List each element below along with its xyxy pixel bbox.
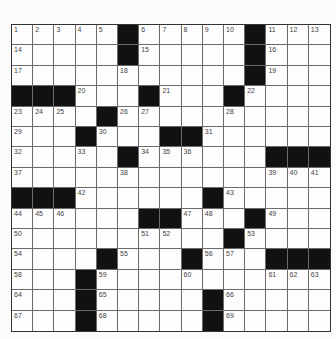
grid-cell[interactable] — [118, 311, 139, 331]
grid-cell[interactable] — [266, 107, 287, 127]
grid-cell[interactable] — [288, 127, 309, 147]
grid-cell[interactable] — [288, 86, 309, 106]
grid-cell[interactable]: 52 — [160, 229, 181, 249]
grid-cell[interactable] — [54, 290, 75, 310]
grid-cell[interactable] — [76, 66, 97, 86]
grid-cell[interactable] — [182, 311, 203, 331]
grid-cell[interactable] — [288, 311, 309, 331]
grid-cell[interactable]: 29 — [12, 127, 33, 147]
grid-cell[interactable]: 39 — [266, 168, 287, 188]
grid-cell[interactable] — [76, 107, 97, 127]
grid-cell[interactable]: 5 — [97, 25, 118, 45]
grid-cell[interactable] — [245, 147, 266, 167]
grid-cell[interactable] — [118, 127, 139, 147]
grid-cell[interactable]: 59 — [97, 270, 118, 290]
grid-cell[interactable] — [139, 290, 160, 310]
grid-cell[interactable] — [309, 66, 330, 86]
grid-cell[interactable] — [203, 147, 224, 167]
grid-cell[interactable] — [54, 249, 75, 269]
grid-cell[interactable] — [33, 147, 54, 167]
grid-cell[interactable] — [160, 249, 181, 269]
grid-cell[interactable] — [309, 188, 330, 208]
grid-cell[interactable] — [97, 209, 118, 229]
grid-cell[interactable]: 65 — [97, 290, 118, 310]
grid-cell[interactable] — [33, 229, 54, 249]
grid-cell[interactable]: 56 — [203, 249, 224, 269]
grid-cell[interactable] — [160, 107, 181, 127]
grid-cell[interactable]: 69 — [224, 311, 245, 331]
grid-cell[interactable]: 64 — [12, 290, 33, 310]
grid-cell[interactable] — [288, 188, 309, 208]
grid-cell[interactable]: 26 — [118, 107, 139, 127]
grid-cell[interactable] — [76, 229, 97, 249]
grid-cell[interactable] — [309, 107, 330, 127]
grid-cell[interactable]: 53 — [245, 229, 266, 249]
grid-cell[interactable] — [160, 45, 181, 65]
grid-cell[interactable] — [97, 229, 118, 249]
grid-cell[interactable] — [245, 290, 266, 310]
grid-cell[interactable] — [118, 290, 139, 310]
grid-cell[interactable]: 17 — [12, 66, 33, 86]
grid-cell[interactable]: 12 — [288, 25, 309, 45]
grid-cell[interactable]: 45 — [33, 209, 54, 229]
grid-cell[interactable]: 10 — [224, 25, 245, 45]
grid-cell[interactable] — [309, 209, 330, 229]
grid-cell[interactable]: 11 — [266, 25, 287, 45]
grid-cell[interactable] — [139, 127, 160, 147]
grid-cell[interactable] — [203, 86, 224, 106]
grid-cell[interactable]: 13 — [309, 25, 330, 45]
grid-cell[interactable] — [182, 86, 203, 106]
grid-cell[interactable]: 63 — [309, 270, 330, 290]
grid-cell[interactable] — [288, 229, 309, 249]
grid-cell[interactable]: 24 — [33, 107, 54, 127]
grid-cell[interactable] — [97, 66, 118, 86]
grid-cell[interactable]: 40 — [288, 168, 309, 188]
grid-cell[interactable] — [309, 229, 330, 249]
grid-cell[interactable]: 62 — [288, 270, 309, 290]
grid-cell[interactable] — [224, 45, 245, 65]
grid-cell[interactable]: 58 — [12, 270, 33, 290]
grid-cell[interactable] — [54, 270, 75, 290]
grid-cell[interactable] — [139, 270, 160, 290]
grid-cell[interactable]: 36 — [182, 147, 203, 167]
grid-cell[interactable]: 44 — [12, 209, 33, 229]
grid-cell[interactable]: 49 — [266, 209, 287, 229]
grid-cell[interactable] — [97, 86, 118, 106]
grid-cell[interactable]: 8 — [182, 25, 203, 45]
grid-cell[interactable]: 18 — [118, 66, 139, 86]
grid-cell[interactable]: 22 — [245, 86, 266, 106]
grid-cell[interactable] — [97, 147, 118, 167]
grid-cell[interactable] — [139, 311, 160, 331]
grid-cell[interactable] — [160, 270, 181, 290]
grid-cell[interactable] — [203, 66, 224, 86]
grid-cell[interactable]: 60 — [182, 270, 203, 290]
grid-cell[interactable] — [245, 270, 266, 290]
grid-cell[interactable] — [160, 290, 181, 310]
grid-cell[interactable]: 21 — [160, 86, 181, 106]
grid-cell[interactable]: 54 — [12, 249, 33, 269]
grid-cell[interactable] — [54, 66, 75, 86]
grid-cell[interactable] — [97, 45, 118, 65]
grid-cell[interactable] — [288, 107, 309, 127]
grid-cell[interactable]: 51 — [139, 229, 160, 249]
grid-cell[interactable] — [182, 66, 203, 86]
grid-cell[interactable] — [33, 127, 54, 147]
grid-cell[interactable] — [76, 249, 97, 269]
grid-cell[interactable] — [266, 127, 287, 147]
grid-cell[interactable]: 50 — [12, 229, 33, 249]
grid-cell[interactable] — [203, 270, 224, 290]
grid-cell[interactable]: 3 — [54, 25, 75, 45]
grid-cell[interactable] — [160, 188, 181, 208]
grid-cell[interactable] — [203, 107, 224, 127]
grid-cell[interactable]: 23 — [12, 107, 33, 127]
grid-cell[interactable] — [309, 127, 330, 147]
grid-cell[interactable]: 66 — [224, 290, 245, 310]
grid-cell[interactable] — [203, 45, 224, 65]
grid-cell[interactable]: 4 — [76, 25, 97, 45]
grid-cell[interactable]: 14 — [12, 45, 33, 65]
grid-cell[interactable] — [33, 168, 54, 188]
grid-cell[interactable] — [139, 249, 160, 269]
grid-cell[interactable] — [245, 311, 266, 331]
grid-cell[interactable]: 35 — [160, 147, 181, 167]
grid-cell[interactable] — [203, 168, 224, 188]
